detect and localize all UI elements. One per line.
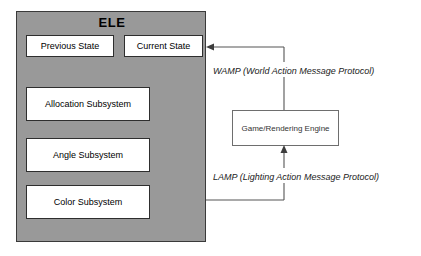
box-previous-state: Previous State <box>26 35 114 57</box>
lamp-arrowhead-icon <box>281 145 288 153</box>
box-game-rendering-engine: Game/Rendering Engine <box>232 110 339 146</box>
box-angle-subsystem-label: Angle Subsystem <box>53 151 123 160</box>
ele-container: ELE Previous State Current State Allocat… <box>16 11 206 242</box>
box-allocation-subsystem: Allocation Subsystem <box>26 87 150 121</box>
box-current-state: Current State <box>124 35 203 57</box>
box-color-subsystem: Color Subsystem <box>26 185 150 219</box>
box-angle-subsystem: Angle Subsystem <box>26 138 150 172</box>
box-allocation-subsystem-label: Allocation Subsystem <box>45 100 131 109</box>
wamp-protocol-label: WAMP (World Action Message Protocol) <box>213 66 374 76</box>
lamp-protocol-label: LAMP (Lighting Action Message Protocol) <box>213 172 379 182</box>
ele-title: ELE <box>17 15 207 30</box>
box-game-rendering-engine-label: Game/Rendering Engine <box>241 124 329 133</box>
diagram-canvas: ELE Previous State Current State Allocat… <box>0 0 421 256</box>
box-previous-state-label: Previous State <box>41 42 100 51</box>
box-color-subsystem-label: Color Subsystem <box>54 198 123 207</box>
wamp-arrowhead-icon <box>206 44 214 51</box>
box-current-state-label: Current State <box>137 42 191 51</box>
